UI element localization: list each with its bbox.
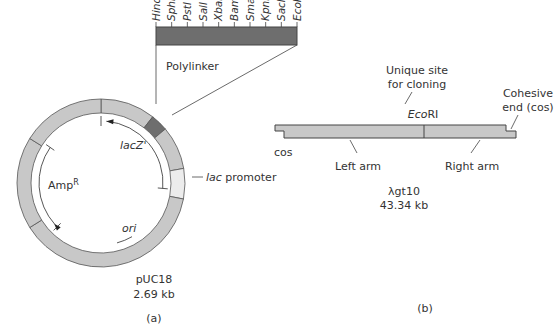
site-label-sphi: SphI (165, 0, 177, 21)
polylinker-bar (156, 27, 297, 45)
lac-promoter-rest: promoter (222, 171, 277, 184)
cohesive-end-label-line1: Cohesive (503, 87, 553, 100)
ampr-start-tick (46, 145, 54, 151)
phage-name: λgt10 (388, 185, 420, 198)
right-arm-leader-line (471, 140, 480, 153)
ring-segment-ori (30, 196, 184, 267)
ampr-label: AmpR (48, 178, 79, 192)
ring-segment-upper-left (30, 99, 101, 146)
polylinker-expansion-line-right (172, 45, 297, 115)
site-label-smai: SmaI (244, 0, 256, 21)
lacz-arrow-icon (106, 119, 113, 124)
site-label-ecori: EcoRI (291, 0, 303, 21)
site-label-psti: PstI (181, 2, 193, 21)
cohesive-end-label-line2: end (cos) (502, 101, 553, 114)
cohesive-end-leader-line (511, 115, 518, 129)
panel-b-lambda-gt10: Unique site for cloning EcoRI Cohesive e… (274, 64, 554, 315)
lac-promoter-italic: lac (206, 171, 222, 184)
ecori-italic: Eco (408, 108, 428, 121)
panel-b-caption: (b) (417, 302, 433, 315)
ampr-text: Amp (48, 179, 73, 192)
panel-a-puc18: HindIIISphIPstISalIXbaIBamHISmaIKpnISacI… (17, 0, 303, 325)
site-label-bamhi: BamHI (228, 0, 240, 21)
polylinker-label: Polylinker (166, 60, 219, 73)
lacz-label: lacZ' (120, 139, 146, 152)
ring-segment-lac-promoter (170, 168, 185, 199)
cos-label: cos (274, 146, 293, 159)
lacz-end-tick (158, 188, 168, 189)
panel-a-caption: (a) (146, 312, 161, 325)
ori-label: ori (122, 222, 136, 235)
ring-segment-lacz (101, 99, 153, 128)
ring-segment-ampr (17, 138, 42, 227)
lac-promoter-label: lac promoter (206, 171, 277, 184)
ring-segment-lacz-lower (155, 129, 184, 171)
polylinker-site-ticks (156, 22, 297, 27)
unique-site-label-line2: for cloning (388, 78, 446, 91)
site-label-kpni: KpnI (259, 0, 271, 21)
ampr-superscript: R (73, 178, 79, 187)
polylinker-site-labels: HindIIISphIPstISalIXbaIBamHISmaIKpnISacI… (150, 0, 303, 22)
site-label-hindiii: HindIII (150, 0, 162, 21)
ecori-rest: RI (427, 108, 438, 121)
plasmid-size: 2.69 kb (133, 288, 174, 301)
right-arm-label: Right arm (445, 160, 499, 173)
unique-site-label-line1: Unique site (386, 64, 448, 77)
left-arm-leader-line (350, 140, 357, 153)
phage-size: 43.34 kb (380, 199, 428, 212)
site-label-saci: SacI (275, 0, 287, 21)
site-label-xbai: XbaI (212, 0, 224, 22)
ori-arc (117, 237, 132, 243)
vector-diagram: HindIIISphIPstISalIXbaIBamHISmaIKpnISacI… (0, 0, 554, 332)
lambda-dna-bar (275, 125, 516, 138)
plasmid-name: pUC18 (136, 273, 173, 286)
site-label-sali: SalI (197, 2, 209, 21)
unique-site-leader-line (405, 92, 412, 104)
left-arm-label: Left arm (335, 160, 381, 173)
ecori-site-label: EcoRI (408, 108, 439, 121)
